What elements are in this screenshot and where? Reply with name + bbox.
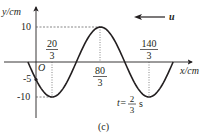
svg-text:3: 3 (50, 50, 55, 61)
initial-point-marker (34, 78, 37, 81)
velocity-arrow (134, 14, 165, 20)
y-axis-label: y/cm (1, 6, 21, 17)
svg-text:s: s (139, 98, 143, 109)
time-label: t= 2 3 s (117, 94, 143, 115)
x-tick-80-3: 80 3 (93, 65, 107, 88)
svg-text:140: 140 (142, 38, 157, 49)
svg-text:80: 80 (95, 65, 105, 76)
wave-diagram: y/cm 10 -5 -10 O 20 3 80 3 140 3 x/cm u … (0, 0, 213, 136)
svg-text:3: 3 (98, 77, 103, 88)
origin-label: O (38, 62, 45, 73)
svg-text:2: 2 (130, 94, 135, 104)
svg-text:20: 20 (47, 38, 57, 49)
svg-text:3: 3 (130, 105, 135, 115)
x-tick-20-3: 20 3 (46, 38, 58, 61)
svg-text:3: 3 (147, 50, 152, 61)
svg-text:t=: t= (117, 97, 127, 108)
y-tick-10: 10 (21, 21, 31, 32)
x-axis-label: x/cm (179, 65, 199, 76)
x-tick-140-3: 140 3 (140, 38, 158, 61)
y-tick-neg10: -10 (17, 91, 30, 102)
figure-caption: (c) (98, 121, 109, 133)
y-tick-neg5: -5 (23, 73, 31, 84)
velocity-label: u (169, 11, 175, 22)
